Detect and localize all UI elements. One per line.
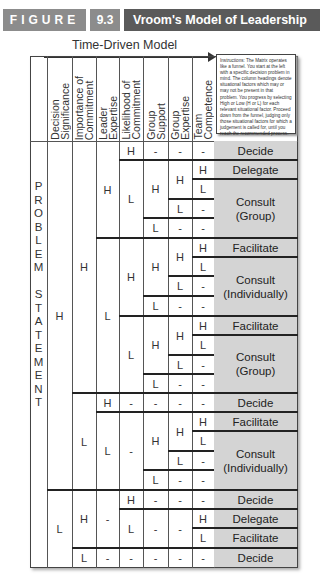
- branch-line: [119, 315, 298, 317]
- gs-high: H: [143, 316, 168, 374]
- ge-high: H: [168, 160, 192, 199]
- branch-line: [72, 547, 298, 549]
- lc-high: H: [119, 238, 143, 316]
- tc-high: H: [192, 238, 214, 257]
- branch-line: [168, 198, 214, 200]
- lc-high: H: [119, 490, 143, 509]
- outcome-decide: Decide: [214, 490, 297, 509]
- gs-low: L: [143, 470, 168, 490]
- header-importance-of-commitment: Importance of Commitment: [72, 60, 96, 140]
- lc-low: L: [119, 509, 143, 548]
- gs-high: H: [143, 160, 168, 218]
- outcome-consult-group: Consult (Group): [214, 179, 297, 238]
- outcome-consult-individually: Consult (Individually): [214, 257, 297, 316]
- tc-low: L: [192, 528, 214, 548]
- ge-low: L: [168, 199, 192, 218]
- ge-high: H: [168, 238, 192, 276]
- tc-na: -: [192, 141, 214, 160]
- le-high: H: [96, 141, 119, 238]
- branch-line: [168, 354, 214, 356]
- ic-low: L: [72, 393, 96, 490]
- gs-low: L: [143, 374, 168, 393]
- ge-na: -: [168, 393, 192, 412]
- le-low: L: [96, 412, 119, 490]
- header-group-expertise: Group Expertise: [168, 60, 192, 140]
- ds-high: H: [47, 141, 72, 490]
- ge-low: L: [168, 276, 192, 296]
- ge-na: -: [168, 509, 192, 548]
- branch-line: [168, 450, 214, 452]
- tc-na: -: [192, 296, 214, 316]
- problem-statement-label: PROBLEMSTATEMENT: [30, 180, 47, 410]
- ge-low: L: [168, 355, 192, 374]
- outcome-delegate: Delegate: [214, 509, 297, 528]
- ge-na: -: [168, 218, 192, 238]
- tc-na: -: [192, 199, 214, 218]
- branch-line: [119, 159, 298, 161]
- ge-low: L: [168, 451, 192, 470]
- gs-na: -: [143, 548, 168, 568]
- ge-na: -: [168, 470, 192, 490]
- model-title: Time-Driven Model: [72, 38, 177, 52]
- branch-line: [143, 373, 214, 375]
- ge-na: -: [168, 490, 192, 509]
- outcome-decide: Decide: [214, 141, 297, 160]
- outcome-facilitate: Facilitate: [214, 238, 297, 257]
- ds-low: L: [47, 490, 72, 568]
- tc-na: -: [192, 374, 214, 393]
- le-high: H: [96, 393, 119, 412]
- branch-line: [192, 430, 298, 432]
- branch-line: [192, 527, 298, 529]
- lc-low: L: [119, 316, 143, 393]
- tc-na: -: [192, 276, 214, 296]
- header-team-competence: Team Competence: [192, 60, 214, 140]
- branch-line: [96, 411, 298, 413]
- figure-label: FIGURE: [3, 9, 86, 31]
- ge-na: -: [168, 296, 192, 316]
- lc-na: -: [119, 412, 143, 490]
- tc-na: -: [192, 393, 214, 412]
- ge-na: -: [168, 374, 192, 393]
- lc-na: -: [119, 393, 143, 412]
- tc-low: L: [192, 431, 214, 451]
- figure-title: Vroom's Model of Leadership: [124, 9, 320, 31]
- branch-line: [47, 489, 298, 491]
- ge-na: -: [168, 548, 192, 568]
- gs-high: H: [143, 238, 168, 296]
- gs-na: -: [143, 393, 168, 412]
- branch-line: [192, 256, 298, 258]
- tc-low: L: [192, 257, 214, 276]
- outcome-facilitate: Facilitate: [214, 316, 297, 335]
- ge-na: -: [168, 141, 192, 160]
- outcome-delegate: Delegate: [214, 160, 297, 179]
- gs-na: -: [143, 141, 168, 160]
- lc-low: L: [119, 160, 143, 238]
- gs-low: L: [143, 296, 168, 316]
- branch-line: [72, 392, 298, 394]
- tc-na: -: [192, 451, 214, 470]
- figure-number: 9.3: [90, 9, 120, 31]
- tc-high: H: [192, 412, 214, 431]
- header-decision-significance: Decision Significance: [47, 60, 72, 140]
- ge-high: H: [168, 412, 192, 451]
- tc-low: L: [192, 335, 214, 355]
- tc-high: H: [192, 160, 214, 179]
- tc-na: -: [192, 490, 214, 509]
- header-group-support: Group Support: [143, 60, 168, 140]
- branch-line: [143, 469, 214, 471]
- le-low: L: [96, 238, 119, 393]
- outcome-consult-individually: Consult (Individually): [214, 431, 297, 490]
- outcome-facilitate: Facilitate: [214, 528, 297, 548]
- tc-na: -: [192, 355, 214, 374]
- branch-line: [192, 178, 298, 180]
- tc-na: -: [192, 548, 214, 568]
- outcome-decide: Decide: [214, 548, 297, 567]
- tc-low: L: [192, 179, 214, 199]
- outcome-decide: Decide: [214, 393, 297, 412]
- branch-line: [143, 295, 214, 297]
- instructions-box: Instructions: The Matrix operates like a…: [216, 54, 296, 134]
- header-likelihood-of-commitment: Likelihood of Commitment: [119, 60, 143, 140]
- gs-high: H: [143, 412, 168, 470]
- tc-na: -: [192, 470, 214, 490]
- ic-high: H: [72, 490, 96, 548]
